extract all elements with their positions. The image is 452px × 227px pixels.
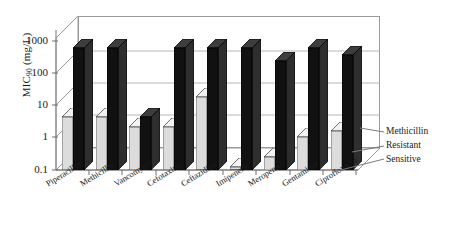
- legend-label-methicillin: Methicillin: [386, 126, 428, 136]
- chart-figure: MIC90 (mg/L): [0, 0, 452, 227]
- legend-label-sensitive: Sensitive: [386, 154, 421, 164]
- bar-ciprofloxacin-methicillin-resistant: [342, 46, 362, 170]
- bar-gentamicin-methicillin-resistant: [308, 39, 328, 170]
- bar-imipenem-methicillin-resistant: [241, 39, 261, 170]
- legend-label-resistant: Resistant: [386, 140, 421, 150]
- bar-series-layer: [0, 0, 452, 227]
- bar-cefotaxime-methicillin-resistant: [174, 39, 194, 170]
- bar-meropenem-methicillin-resistant: [275, 52, 295, 170]
- bar-methicillin-methicillin-resistant: [107, 39, 127, 170]
- bar-piperacillin-methicillin-resistant: [73, 39, 93, 170]
- bar-ceftazidime-methicillin-resistant: [207, 39, 227, 170]
